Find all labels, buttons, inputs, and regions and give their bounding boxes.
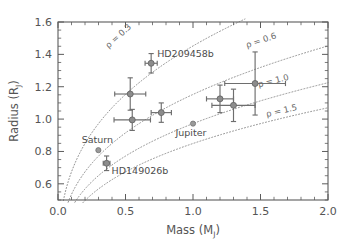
y-tick-label-4: 1.4 xyxy=(35,48,53,61)
y-tick-label-3: 1.2 xyxy=(35,81,53,94)
x-axis-title-close: ) xyxy=(215,223,220,237)
data-point-transiting-planets-2 xyxy=(129,117,135,123)
mass-radius-chart-figure: 0.00.51.01.52.00.60.81.01.21.41.6 HD2094… xyxy=(0,0,351,250)
y-tick-label-5: 1.6 xyxy=(35,16,53,29)
point-label-hd209458b: HD209458b xyxy=(157,48,214,59)
data-point-jupiter xyxy=(190,121,195,126)
x-tick-label-0: 0.0 xyxy=(49,205,67,218)
x-axis-title: Mass (MJ) xyxy=(166,223,220,239)
x-axis-title-base: Mass (M xyxy=(166,223,213,237)
data-point-transiting-planets-1 xyxy=(127,91,133,97)
data-point-hd209458b xyxy=(148,60,154,66)
y-axis-title: Radius (RJ) xyxy=(7,80,23,141)
data-point-transiting-planets-3 xyxy=(158,110,164,116)
x-tick-label-3: 1.5 xyxy=(252,205,270,218)
point-label-saturn: Saturn xyxy=(82,134,113,145)
y-tick-label-1: 0.8 xyxy=(35,145,53,158)
x-tick-label-2: 1.0 xyxy=(184,205,202,218)
point-label-jupiter: Jupiter xyxy=(175,127,207,138)
x-tick-label-4: 2.0 xyxy=(319,205,337,218)
y-tick-label-2: 1.0 xyxy=(35,113,53,126)
y-tick-label-0: 0.6 xyxy=(35,178,53,191)
data-point-saturn xyxy=(96,148,101,153)
y-axis-title-base: Radius (R xyxy=(7,87,21,142)
x-tick-label-1: 0.5 xyxy=(117,205,135,218)
data-point-hd149026b xyxy=(104,160,110,166)
data-point-transiting-planets-5 xyxy=(231,102,237,108)
y-axis-title-close: ) xyxy=(7,80,21,85)
data-point-transiting-planets-4 xyxy=(217,96,223,102)
mass-radius-scatter-plot: 0.00.51.01.52.00.60.81.01.21.41.6 HD2094… xyxy=(0,0,351,250)
point-label-hd149026b: HD149026b xyxy=(112,165,169,176)
